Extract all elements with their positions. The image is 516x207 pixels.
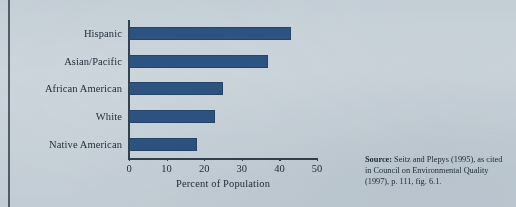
value-axis-title: Percent of Population — [129, 178, 317, 189]
x-tick-mark — [242, 158, 243, 161]
bar — [129, 55, 268, 68]
bar — [129, 110, 215, 123]
bar-row: White — [129, 103, 215, 131]
bar — [129, 82, 223, 95]
x-tick-label: 0 — [126, 163, 131, 174]
category-label: Asian/Pacific — [64, 56, 122, 67]
x-tick-label: 50 — [312, 163, 323, 174]
plot-area: HispanicAsian/PacificAfrican AmericanWhi… — [129, 20, 317, 158]
chart-figure: HispanicAsian/PacificAfrican AmericanWhi… — [0, 0, 516, 207]
bar — [129, 138, 197, 151]
x-tick-mark — [167, 158, 168, 161]
bar-row: Asian/Pacific — [129, 48, 268, 76]
bar — [129, 27, 291, 40]
x-tick-label: 10 — [161, 163, 172, 174]
x-tick-mark — [129, 158, 130, 161]
category-label: White — [96, 111, 122, 122]
x-tick-label: 20 — [199, 163, 210, 174]
category-label: Native American — [49, 139, 122, 150]
x-tick-mark — [279, 158, 280, 161]
category-label: African American — [45, 83, 122, 94]
x-tick-label: 40 — [274, 163, 285, 174]
source-note: Source: Seitz and Plepys (1995), as cite… — [365, 155, 510, 188]
category-label: Hispanic — [84, 28, 122, 39]
bar-row: Native American — [129, 130, 197, 158]
bar-row: Hispanic — [129, 20, 291, 48]
x-tick-label: 30 — [237, 163, 248, 174]
source-note-label: Source: — [365, 155, 392, 164]
category-axis-line — [128, 158, 317, 160]
x-tick-mark — [204, 158, 205, 161]
page-gutter-rule — [8, 0, 10, 207]
bar-row: African American — [129, 75, 223, 103]
x-tick-mark — [317, 158, 318, 161]
